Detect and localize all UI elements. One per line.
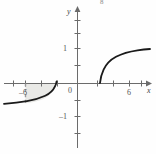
- y-axis-arrow: [75, 6, 81, 12]
- y-tick-label-neg1: –1: [59, 112, 67, 121]
- x-tick-label-neg6: –6: [19, 88, 27, 97]
- y-tick-label-1: 1: [63, 44, 67, 53]
- x-tick-label-6: 6: [127, 88, 131, 97]
- y-axis-label: y: [67, 7, 71, 16]
- x-axis-label: x: [147, 86, 151, 95]
- function-graph-figure: 8 y x 0 –6 6 1 –1: [0, 0, 156, 154]
- curve-right-branch: [100, 49, 150, 83]
- origin-label: 0: [68, 86, 72, 95]
- clipped-caption-fragment: 8: [100, 0, 104, 6]
- coordinate-plane-svg: [0, 0, 156, 154]
